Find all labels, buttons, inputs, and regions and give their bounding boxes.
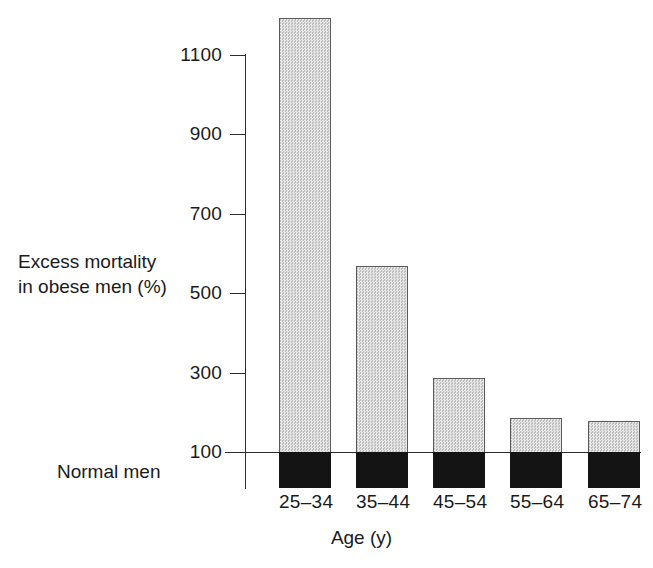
bar-35-44	[356, 266, 408, 488]
x-axis-category-label-35-44: 35–44	[356, 491, 408, 513]
y-axis-tick-label-700: 700	[152, 204, 222, 223]
bar-65-74	[588, 421, 640, 488]
y-axis-tick-300	[230, 373, 246, 374]
plot-area: 1100 900 700 500 300 100	[0, 0, 653, 568]
y-axis-title-line-2: in obese men (%)	[18, 274, 167, 299]
bar-segment-excess-25-34	[279, 18, 331, 453]
y-axis-tick-900	[230, 134, 246, 135]
y-axis-tick-label-900: 900	[152, 124, 222, 143]
bar-25-34	[279, 18, 331, 488]
y-axis-tick-500	[230, 293, 246, 294]
y-axis-tick-700	[230, 214, 246, 215]
bar-segment-normal-35-44	[356, 452, 408, 488]
bar-segment-normal-55-64	[510, 452, 562, 488]
x-axis-category-label-65-74: 65–74	[588, 491, 640, 513]
bar-segment-excess-45-54	[433, 378, 485, 453]
x-axis-category-label-45-54: 45–54	[433, 491, 485, 513]
x-axis-title-text: Age (y)	[331, 527, 392, 548]
x-axis-category-label-55-64: 55–64	[510, 491, 562, 513]
y-axis-title-line-1: Excess mortality	[18, 251, 156, 272]
bar-chart-figure: 1100 900 700 500 300 100	[0, 0, 653, 568]
y-axis-tick-label-100: 100	[152, 442, 222, 461]
bar-segment-excess-65-74	[588, 421, 640, 453]
y-axis-tick-100	[230, 452, 246, 453]
y-axis-tick-label-300: 300	[152, 363, 222, 382]
y-axis-tick-1100	[230, 55, 246, 56]
bar-segment-normal-65-74	[588, 452, 640, 488]
y-axis-title: Excess mortality in obese men (%)	[18, 249, 167, 299]
bar-segment-excess-35-44	[356, 266, 408, 453]
x-axis-title: Age (y)	[0, 527, 653, 549]
bar-segment-normal-25-34	[279, 452, 331, 488]
x-axis-category-label-25-34: 25–34	[279, 491, 331, 513]
bar-55-64	[510, 418, 562, 488]
y-axis-spine	[245, 54, 246, 489]
bar-segment-excess-55-64	[510, 418, 562, 453]
bar-45-54	[433, 378, 485, 488]
y-axis-tick-label-1100: 1100	[152, 45, 222, 64]
normal-men-annotation: Normal men	[57, 461, 160, 483]
bar-segment-normal-45-54	[433, 452, 485, 488]
